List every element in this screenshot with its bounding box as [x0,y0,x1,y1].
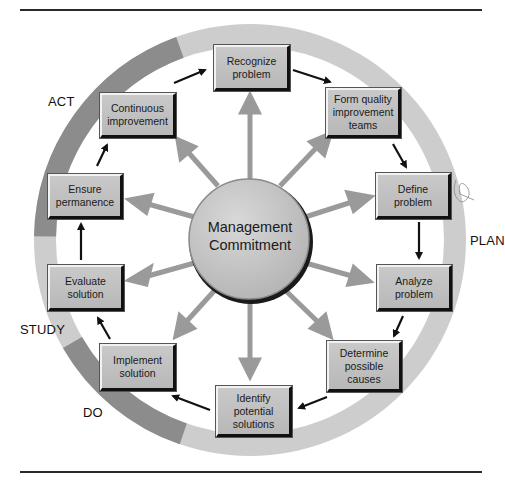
step-form-quality-improvement-teams: Form quality improvement teams [326,88,401,138]
step-evaluate-solution: Evaluate solution [48,265,124,311]
step-label: Recognize problem [227,55,277,81]
step-identify-potential-solutions: Identify potential solutions [216,386,292,437]
step-label: Form quality improvement teams [333,93,394,132]
step-label: Determine possible causes [340,347,388,386]
step-label: Define problem [394,183,432,209]
step-label: Evaluate solution [65,275,106,301]
phase-label-do: DO [83,405,103,420]
phase-label-plan: PLAN [470,233,505,248]
step-define-problem: Define problem [376,173,451,219]
step-label: Identify potential solutions [233,392,274,431]
step-label: Continuous improvement [107,102,168,128]
step-ensure-permanence: Ensure permanence [48,174,123,219]
phase-label-act: ACT [48,94,75,109]
center-label: Management Commitment [190,218,310,254]
step-label: Implement solution [113,354,162,380]
step-analyze-problem: Analyze problem [377,265,452,311]
step-implement-solution: Implement solution [100,344,176,391]
step-label: Analyze problem [395,275,433,301]
phase-label-study: STUDY [20,322,65,337]
step-determine-possible-causes: Determine possible causes [327,341,402,392]
step-label: Ensure permanence [56,183,114,209]
step-recognize-problem: Recognize problem [214,45,290,91]
step-continuous-improvement: Continuous improvement [100,93,176,138]
